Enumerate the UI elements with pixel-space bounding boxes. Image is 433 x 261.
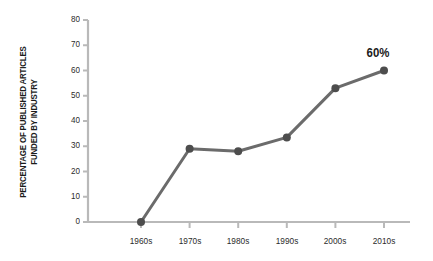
data-point-marker	[331, 84, 339, 92]
data-point-marker	[283, 133, 291, 141]
data-point-marker	[186, 145, 194, 153]
data-point-marker	[380, 67, 388, 75]
plot-area	[0, 0, 433, 261]
x-axis-tick-label: 2010s	[356, 236, 411, 246]
data-point-marker	[234, 147, 242, 155]
chart-figure: PERCENTAGE OF PUBLISHED ARTICLES FUNDED …	[0, 0, 433, 261]
series-line	[141, 71, 384, 223]
data-point-marker	[137, 218, 145, 226]
x-axis-tick-label: 1970s	[162, 236, 217, 246]
x-axis-tick-label: 1980s	[211, 236, 266, 246]
x-axis-tick-label: 2000s	[308, 236, 363, 246]
axis-layer	[83, 20, 410, 228]
x-axis-tick-label: 1960s	[113, 236, 168, 246]
data-point-markers	[137, 67, 388, 227]
series-layer	[141, 71, 384, 223]
x-axis-tick-labels: 1960s1970s1980s1990s2000s2010s	[0, 236, 433, 252]
data-label-annotation: 60%	[367, 46, 390, 60]
x-axis-tick-label: 1990s	[259, 236, 314, 246]
